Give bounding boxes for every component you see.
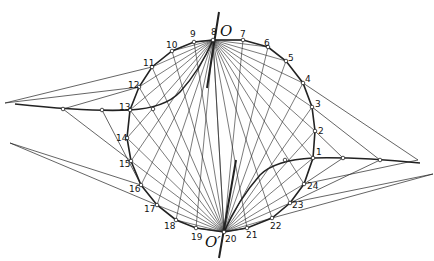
fan-line	[213, 40, 312, 107]
point-label: 14	[116, 133, 128, 143]
point-label: 17	[144, 204, 155, 214]
circle-point-marker	[194, 226, 198, 230]
fan-line	[213, 40, 268, 47]
circle-point-marker	[310, 105, 314, 109]
auxiliary-line	[5, 87, 139, 103]
pole-label-o: O	[220, 22, 232, 40]
point-label: 9	[190, 29, 196, 39]
point-label: 3	[315, 99, 321, 109]
point-label: 7	[240, 29, 246, 39]
circle-points	[61, 38, 382, 234]
circle-point-marker	[302, 182, 306, 186]
circle-construction-figure: 123456789101112131415161718192021222324 …	[0, 0, 434, 261]
point-label: 5	[288, 53, 294, 63]
diagram-canvas: 123456789101112131415161718192021222324 …	[0, 0, 434, 261]
point-label: 24	[307, 181, 319, 191]
point-label: 4	[305, 74, 311, 84]
auxiliary-line	[290, 160, 380, 203]
branch-point-marker	[341, 156, 345, 160]
point-label: 11	[143, 58, 154, 68]
point-labels: 123456789101112131415161718192021222324	[116, 27, 324, 244]
point-label: 16	[129, 184, 141, 194]
point-label: 20	[225, 234, 237, 244]
point-label: 2	[318, 126, 324, 136]
fan-line	[213, 40, 290, 203]
point-label: 12	[128, 80, 139, 90]
pole-label-o-prime: O′	[205, 233, 221, 251]
point-label: 13	[119, 102, 130, 112]
point-label: 6	[264, 38, 270, 48]
circle-point-marker	[311, 156, 315, 160]
point-label: 10	[166, 40, 178, 50]
point-label: 19	[191, 232, 203, 242]
point-label: 23	[292, 200, 303, 210]
circle-point-marker	[155, 203, 159, 207]
point-label: 18	[164, 221, 176, 231]
point-label: 1	[316, 147, 322, 157]
circle-point-marker	[270, 216, 274, 220]
point-label: 22	[270, 221, 281, 231]
fan-line	[157, 40, 213, 205]
right-branch-curve	[224, 158, 420, 232]
branch-point-marker	[61, 107, 65, 111]
point-label: 21	[246, 230, 257, 240]
branch-point-marker	[378, 158, 382, 162]
circle-point-marker	[211, 38, 215, 42]
circle-point-marker	[192, 40, 196, 44]
branch-point-marker	[151, 107, 155, 111]
point-label: 15	[119, 159, 130, 169]
point-label: 8	[211, 27, 217, 37]
auxiliary-line	[102, 110, 141, 185]
branch-point-marker	[100, 108, 104, 112]
circle-point-marker	[313, 129, 317, 133]
branch-point-marker	[283, 158, 287, 162]
fan-line	[213, 40, 313, 158]
